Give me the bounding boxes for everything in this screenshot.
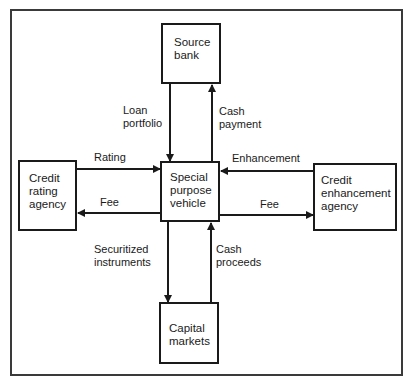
edge-label-enhancement: Enhancement xyxy=(232,152,300,165)
edge-label-rating: Rating xyxy=(94,151,126,164)
edge-label-securitized-instruments: Securitized instruments xyxy=(94,243,151,269)
edge-label-cash-proceeds: Cash proceeds xyxy=(216,243,261,269)
node-special-purpose-vehicle: Special purpose vehicle xyxy=(160,161,220,222)
node-capital-markets-label: Capital markets xyxy=(169,322,210,348)
edge-label-cash-payment: Cash payment xyxy=(219,105,261,131)
node-credit-rating-agency: Credit rating agency xyxy=(18,160,77,231)
edge-label-fee-left: Fee xyxy=(100,196,119,209)
edge-label-fee-right: Fee xyxy=(260,198,279,211)
node-credit-enhancement-agency-label: Credit enhancement agency xyxy=(321,174,391,213)
node-source-bank: Source bank xyxy=(161,23,221,84)
edge-label-loan-portfolio: Loan portfolio xyxy=(123,104,162,130)
node-capital-markets: Capital markets xyxy=(159,302,219,364)
node-source-bank-label: Source bank xyxy=(174,36,210,62)
node-credit-rating-agency-label: Credit rating agency xyxy=(29,172,66,211)
node-spv-label: Special purpose vehicle xyxy=(170,171,212,210)
node-credit-enhancement-agency: Credit enhancement agency xyxy=(313,163,397,231)
